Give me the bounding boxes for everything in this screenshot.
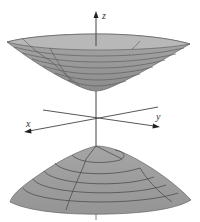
upper-sheet [7,34,190,91]
lower-sheet [10,146,191,220]
z-axis-arrow-icon [94,11,99,18]
y-axis-arrow-icon [153,124,161,129]
x-axis-label: x [25,118,31,129]
y-axis-label: y [155,111,161,122]
z-axis-label: z [101,10,106,21]
hyperboloid-diagram: z x y [0,0,200,222]
x-axis-arrow-icon [24,129,32,134]
xy-axes: x y [24,107,161,134]
